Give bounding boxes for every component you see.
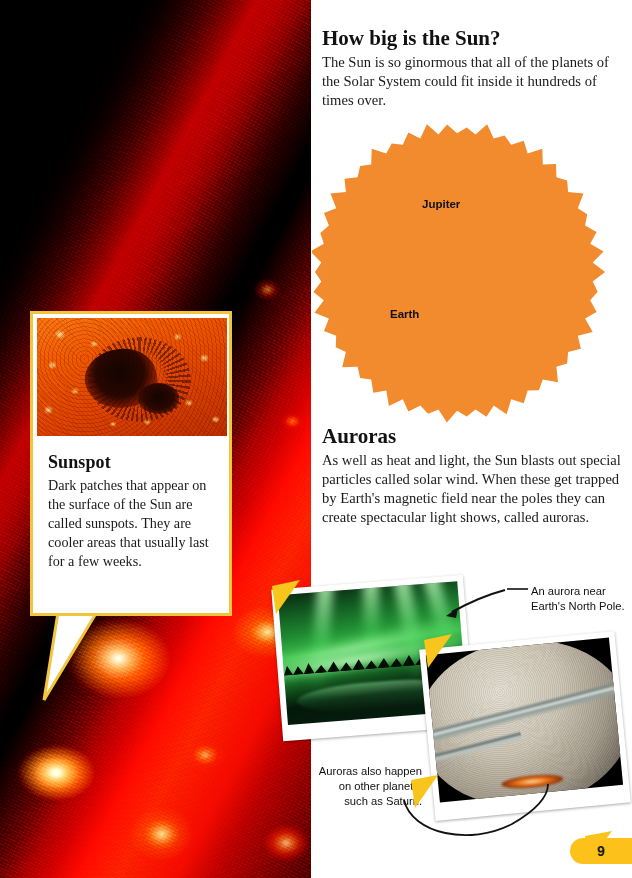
sunspot-body: Dark patches that appear on the surface … [48, 476, 217, 570]
aurora-caption: An aurora near Earth's North Pole. [531, 584, 627, 614]
section-how-big-is-the-sun: How big is the Sun? The Sun is so ginorm… [322, 26, 622, 110]
auroras-title: Auroras [322, 424, 622, 449]
right-content-column: How big is the Sun? The Sun is so ginorm… [312, 0, 632, 878]
sun-disc [312, 124, 605, 422]
saturn-caption: Auroras also happen on other planets, su… [312, 764, 422, 809]
sunspot-grain [37, 318, 227, 436]
page-number: 9 [597, 843, 605, 859]
page-root: Sunspot Dark patches that appear on the … [0, 0, 632, 878]
sunspot-photo [37, 318, 227, 436]
saturn-photo [419, 631, 631, 821]
saturn-image [426, 638, 623, 803]
sunspot-title: Sunspot [48, 452, 217, 473]
page-number-badge: 9 [570, 838, 632, 864]
auroras-body: As well as heat and light, the Sun blast… [322, 451, 622, 527]
sun-scale-diagram: Jupiter Earth [312, 120, 632, 425]
sun-diagram-svg [312, 120, 632, 425]
sunspot-callout-card: Sunspot Dark patches that appear on the … [30, 311, 232, 616]
jupiter-label: Jupiter [422, 198, 460, 210]
how-big-title: How big is the Sun? [322, 26, 622, 51]
earth-label: Earth [390, 308, 419, 320]
section-auroras: Auroras As well as heat and light, the S… [322, 424, 622, 527]
how-big-body: The Sun is so ginormous that all of the … [322, 53, 622, 110]
sunspot-text-block: Sunspot Dark patches that appear on the … [48, 452, 217, 570]
